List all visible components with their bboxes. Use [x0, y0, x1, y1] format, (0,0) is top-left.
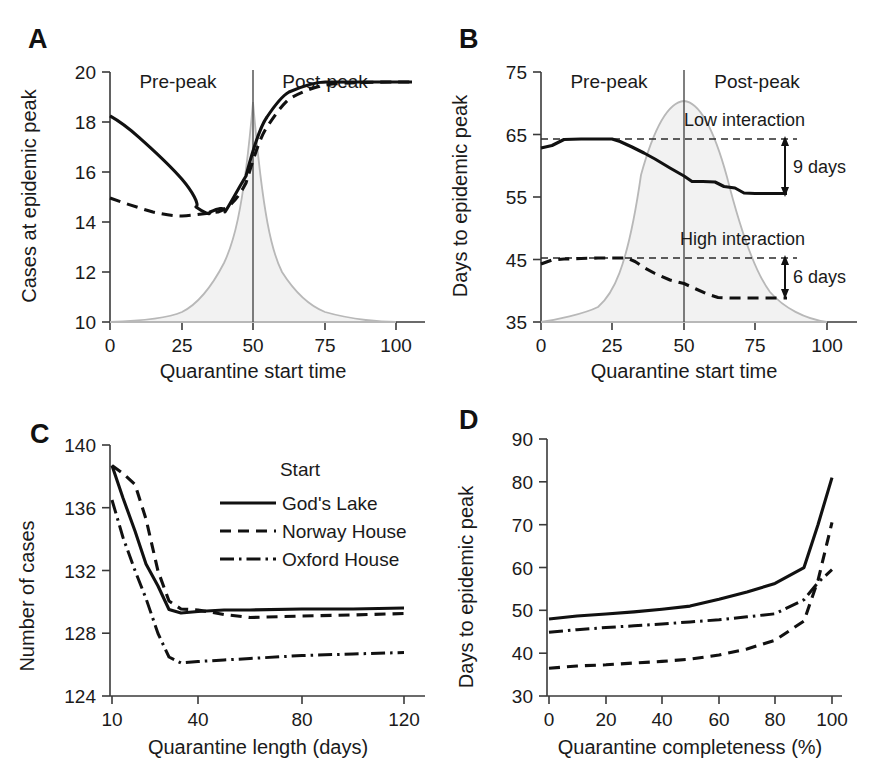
- panel-d-ytick-2: 50: [512, 600, 533, 621]
- panel-a-ytick-2: 14: [75, 212, 97, 233]
- panel-b-letter: B: [459, 24, 479, 54]
- panel-c-xtick-3: 120: [388, 709, 420, 730]
- panel-b-delta-9days-label: 9 days: [793, 157, 846, 177]
- panel-d-ytick-4: 70: [512, 515, 533, 536]
- panel-d-series-norway-house: [549, 522, 832, 668]
- figure-container: A Cases at epidemic peak 10 12 14 16 18 …: [0, 0, 874, 783]
- panel-d-ytick-5: 80: [512, 472, 533, 493]
- panel-a-ytick-1: 12: [75, 262, 96, 283]
- panel-d-ytick-0: 30: [512, 686, 533, 707]
- panel-b-annot-high-interaction: High interaction: [680, 229, 805, 249]
- panel-c-svg: C Number of cases 124 128 132 136 140: [0, 391, 437, 783]
- panel-b-region-post-peak: Post-peak: [714, 71, 800, 92]
- panel-d-ytick-1: 40: [512, 643, 533, 664]
- panel-c-ytick-4: 140: [64, 435, 96, 456]
- panel-d: D Days to epidemic peak 30 40 50 60 70 8…: [437, 391, 874, 783]
- panel-d-x-axis-title: Quarantine completeness (%): [558, 736, 823, 758]
- panel-c-letter: C: [30, 419, 50, 449]
- panel-c-x-ticks: 10 40 80 120: [101, 696, 419, 730]
- panel-b-ytick-0: 35: [506, 312, 527, 333]
- panel-a: A Cases at epidemic peak 10 12 14 16 18 …: [0, 0, 437, 392]
- panel-d-y-ticks: 30 40 50 60 70 80 90: [512, 429, 547, 707]
- panel-b-delta-6days-arrow: [781, 255, 789, 299]
- panel-d-xtick-0: 0: [544, 709, 555, 730]
- panel-b-y-axis-title: Days to epidemic peak: [449, 94, 471, 297]
- panel-b-ytick-4: 75: [506, 62, 527, 83]
- panel-d-series-gods-lake: [549, 478, 832, 619]
- panel-b-xtick-3: 75: [744, 335, 765, 356]
- panel-a-xtick-1: 25: [171, 335, 192, 356]
- panel-b-delta-6days-label: 6 days: [793, 267, 846, 287]
- panel-b-delta-9days-arrow: [781, 136, 789, 197]
- panel-b-xtick-1: 25: [601, 335, 622, 356]
- panel-b-svg: B Days to epidemic peak 35 45 55 65 75: [437, 0, 874, 392]
- panel-a-letter: A: [28, 24, 48, 54]
- panel-d-xtick-4: 80: [764, 709, 785, 730]
- panel-b-xtick-4: 100: [811, 335, 843, 356]
- panel-d-ytick-3: 60: [512, 558, 533, 579]
- panel-d-ytick-6: 90: [512, 429, 533, 450]
- panel-c-y-ticks: 124 128 132 136 140: [64, 435, 110, 707]
- panel-b-x-axis-title: Quarantine start time: [591, 360, 778, 382]
- panel-b-xtick-2: 50: [673, 335, 694, 356]
- panel-a-y-ticks: 10 12 14 16 18 20: [75, 62, 110, 333]
- panel-b-annot-low-interaction: Low interaction: [684, 110, 805, 130]
- panel-a-x-ticks: 0 25 50 75 100: [105, 322, 412, 356]
- panel-c-legend-label-gods-lake: God's Lake: [282, 493, 378, 514]
- panel-b-ytick-2: 55: [506, 187, 527, 208]
- panel-c-ytick-1: 128: [64, 623, 96, 644]
- panel-b-x-ticks: 0 25 50 75 100: [536, 322, 843, 356]
- panel-b-region-pre-peak: Pre-peak: [570, 71, 648, 92]
- panel-c-xtick-0: 10: [101, 709, 122, 730]
- panel-d-xtick-3: 60: [708, 709, 729, 730]
- panel-a-y-axis-title: Cases at epidemic peak: [18, 88, 40, 302]
- panel-b: B Days to epidemic peak 35 45 55 65 75: [437, 0, 874, 392]
- panel-a-ytick-3: 16: [75, 162, 96, 183]
- panel-c-legend-label-oxford-house: Oxford House: [282, 549, 399, 570]
- panel-c-xtick-2: 80: [291, 709, 312, 730]
- panel-d-xtick-2: 40: [651, 709, 672, 730]
- panel-a-xtick-4: 100: [380, 335, 412, 356]
- panel-d-xtick-1: 20: [595, 709, 616, 730]
- panel-b-ytick-1: 45: [506, 250, 527, 271]
- panel-c-ytick-2: 132: [64, 561, 96, 582]
- panel-b-ytick-3: 65: [506, 125, 527, 146]
- panel-b-xtick-0: 0: [536, 335, 547, 356]
- panel-a-xtick-0: 0: [105, 335, 116, 356]
- panel-c-y-axis-title: Number of cases: [16, 520, 38, 671]
- panel-d-series-oxford-house: [549, 570, 832, 633]
- panel-d-xtick-5: 100: [816, 709, 848, 730]
- panel-a-svg: A Cases at epidemic peak 10 12 14 16 18 …: [0, 0, 437, 392]
- panel-d-svg: D Days to epidemic peak 30 40 50 60 70 8…: [437, 391, 874, 783]
- panel-a-region-pre-peak: Pre-peak: [139, 71, 217, 92]
- panel-a-x-axis-title: Quarantine start time: [160, 360, 347, 382]
- panel-c-ytick-0: 124: [64, 686, 96, 707]
- panel-c-legend-label-norway-house: Norway House: [282, 521, 407, 542]
- panel-a-xtick-2: 50: [242, 335, 263, 356]
- panel-d-x-ticks: 0 20 40 60 80 100: [544, 696, 848, 730]
- panel-b-y-ticks: 35 45 55 65 75: [506, 62, 541, 333]
- panel-c-ytick-3: 136: [64, 498, 96, 519]
- panel-a-ytick-5: 20: [75, 62, 96, 83]
- panel-c-xtick-1: 40: [187, 709, 208, 730]
- panel-d-letter: D: [459, 405, 479, 435]
- panel-a-ytick-0: 10: [75, 312, 96, 333]
- panel-a-xtick-3: 75: [314, 335, 335, 356]
- panel-c: C Number of cases 124 128 132 136 140: [0, 391, 437, 783]
- panel-c-x-axis-title: Quarantine length (days): [148, 736, 368, 758]
- panel-a-ytick-4: 18: [75, 112, 96, 133]
- panel-c-legend-title: Start: [280, 459, 321, 480]
- panel-c-legend: Start God's Lake Norway House Oxford Hou…: [220, 459, 407, 570]
- panel-d-y-axis-title: Days to epidemic peak: [455, 485, 477, 688]
